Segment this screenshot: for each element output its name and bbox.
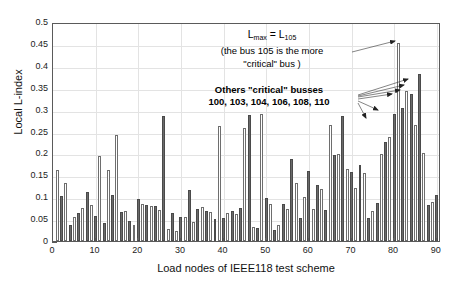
bar (354, 188, 357, 241)
x-tick-label: 20 (123, 245, 151, 255)
others-annotation-line1: Others "critical" busses (176, 84, 362, 96)
bar (77, 213, 80, 241)
bar (60, 196, 63, 241)
bar (286, 209, 289, 241)
lmax-annotation-line1: Lmax = L105 (182, 28, 362, 44)
bar (320, 189, 323, 241)
x-tick-label: 50 (251, 245, 279, 255)
bar (90, 205, 93, 241)
bar (290, 159, 293, 241)
bar (397, 43, 400, 241)
bar (359, 165, 362, 241)
bar (367, 218, 370, 241)
y-tick-label: 0.1 (6, 192, 48, 202)
bar (162, 116, 165, 241)
x-tick-label: 70 (337, 245, 365, 255)
x-tick-mark (393, 238, 394, 242)
bar (265, 198, 268, 241)
bar (86, 192, 89, 241)
bar (69, 225, 72, 241)
x-tick-mark (180, 238, 181, 242)
bar (124, 211, 127, 241)
bar (337, 154, 340, 241)
bar (248, 115, 251, 241)
bar (141, 204, 144, 241)
x-tick-label: 60 (294, 245, 322, 255)
lmax-subscript: max (254, 34, 267, 41)
y-tick-label: 0.35 (6, 83, 48, 93)
bar (158, 210, 161, 241)
bar (188, 190, 191, 241)
bar (435, 195, 438, 241)
x-tick-mark (308, 238, 309, 242)
bar (73, 217, 76, 241)
lmax-equals: = L (267, 28, 285, 40)
x-tick-label: 90 (422, 245, 450, 255)
bar (201, 207, 204, 241)
bar (81, 208, 84, 241)
y-tick-label: 0.05 (6, 214, 48, 224)
bar (111, 195, 114, 241)
bar (145, 205, 148, 241)
bar (303, 197, 306, 241)
bar (252, 227, 255, 241)
y-tick-label: 0.45 (6, 39, 48, 49)
others-annotation-line2: 100, 103, 104, 106, 108, 110 (176, 96, 362, 108)
y-tick-label: 0.15 (6, 170, 48, 180)
bar (175, 231, 178, 242)
x-tick-label: 40 (209, 245, 237, 255)
y-tick-label: 0.25 (6, 127, 48, 137)
bar (384, 142, 387, 241)
bar (235, 214, 238, 241)
x-tick-mark (137, 238, 138, 242)
y-tick-mark (52, 242, 57, 243)
x-tick-label: 0 (38, 245, 66, 255)
bar (171, 213, 174, 241)
bar (393, 114, 396, 241)
bar (414, 125, 417, 241)
bar (295, 183, 298, 241)
bar (324, 210, 327, 241)
x-tick-label: 80 (379, 245, 407, 255)
bar (209, 212, 212, 241)
bar (388, 137, 391, 241)
bar (329, 125, 332, 242)
lmax-annotation-line3: "critical" bus ) (182, 57, 362, 70)
bar (341, 116, 344, 241)
bar (56, 170, 59, 241)
bar (380, 154, 383, 241)
bar (269, 204, 272, 241)
x-tick-mark (265, 238, 266, 242)
x-tick-mark (436, 238, 437, 242)
bar (422, 153, 425, 241)
y-tick-label: 0.4 (6, 61, 48, 71)
bar (192, 222, 195, 241)
others-annotation: Others "critical" busses 100, 103, 104, … (176, 84, 362, 108)
lmax-annotation: Lmax = L105 (the bus 105 is the more "cr… (182, 28, 362, 70)
bar (431, 202, 434, 241)
bar (64, 183, 67, 241)
bar (299, 218, 302, 241)
bar (133, 225, 136, 241)
y-tick-label: 0.5 (6, 17, 48, 27)
bar (316, 185, 319, 241)
bar (418, 74, 421, 241)
x-tick-mark (95, 238, 96, 242)
y-tick-label: 0.2 (6, 148, 48, 158)
bar (184, 217, 187, 241)
l105-subscript: 105 (285, 34, 297, 41)
x-tick-mark (52, 238, 53, 242)
bar (256, 228, 259, 241)
bar (243, 128, 246, 241)
x-tick-mark (351, 238, 352, 242)
bar (115, 135, 118, 241)
bar (231, 211, 234, 241)
bar (107, 170, 110, 241)
x-axis-title: Load nodes of IEEE118 test scheme (52, 262, 440, 274)
bar (150, 206, 153, 241)
bar (103, 223, 106, 241)
bar (196, 209, 199, 241)
lmax-annotation-line2: (the bus 105 is the more (182, 44, 362, 57)
bar (333, 155, 336, 241)
bar (277, 225, 280, 241)
